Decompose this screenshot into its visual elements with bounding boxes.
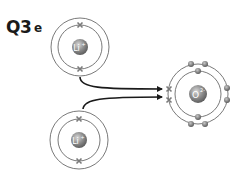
ionic-bonding-diagram: Li + Li + O 2-: [0, 0, 245, 177]
electron-dot-icon: [195, 114, 201, 120]
ion-symbol: Li: [73, 44, 80, 53]
ion-symbol: O: [192, 90, 199, 100]
electron-transfer-arrow-bottom: [83, 97, 162, 109]
lithium-ion-top: Li +: [51, 18, 109, 76]
electron-transfer-arrow-top: [80, 77, 162, 89]
electron-dot-icon: [224, 85, 230, 91]
ion-charge: +: [80, 134, 84, 140]
ion-charge: 2-: [200, 87, 205, 93]
electron-dot-icon: [202, 61, 208, 67]
electron-dot-icon: [195, 68, 201, 74]
lithium-ion-bottom: Li +: [50, 111, 108, 169]
ion-symbol: Li: [72, 137, 79, 146]
electron-dot-icon: [202, 121, 208, 127]
ion-charge: +: [81, 41, 85, 47]
oxide-ion: O 2-: [167, 61, 231, 127]
electron-dot-icon: [188, 61, 194, 67]
electron-dot-icon: [224, 97, 230, 103]
electron-dot-icon: [188, 121, 194, 127]
